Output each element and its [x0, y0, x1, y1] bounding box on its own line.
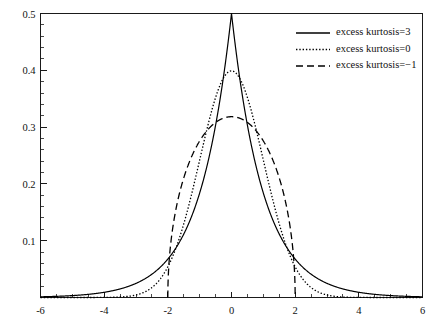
- plot-frame: [41, 14, 423, 298]
- legend-label: excess kurtosis=3: [336, 26, 410, 37]
- legend-label: excess kurtosis=0: [336, 43, 410, 54]
- y-tick-label: 0.1: [22, 236, 35, 247]
- y-axis-minor-ticks: [41, 25, 45, 286]
- x-axis-major-ticks: [41, 292, 423, 298]
- x-tick-label: 2: [293, 305, 298, 316]
- legend-label: excess kurtosis=−1: [336, 59, 416, 70]
- x-tick-label: -2: [163, 305, 172, 316]
- density-curve-1: [41, 14, 423, 297]
- y-tick-label: 0.2: [22, 179, 35, 190]
- kurtosis-density-chart: -6-4-20246 0.10.20.30.40.5 excess kurtos…: [0, 0, 436, 328]
- density-curves: [41, 14, 423, 298]
- x-tick-label: -6: [36, 305, 45, 316]
- y-axis-tick-labels: 0.10.20.30.40.5: [22, 9, 36, 247]
- y-tick-label: 0.5: [22, 9, 35, 20]
- x-tick-label: -4: [100, 305, 109, 316]
- chart-canvas: -6-4-20246 0.10.20.30.40.5 excess kurtos…: [0, 0, 436, 328]
- y-tick-label: 0.3: [22, 122, 35, 133]
- chart-legend: excess kurtosis=3excess kurtosis=0excess…: [296, 26, 416, 70]
- x-axis-tick-labels: -6-4-20246: [36, 305, 425, 316]
- y-tick-label: 0.4: [22, 65, 36, 76]
- x-tick-label: 4: [356, 305, 362, 316]
- x-tick-label: 6: [420, 305, 425, 316]
- x-tick-label: 0: [229, 305, 234, 316]
- density-curve-2: [41, 71, 423, 298]
- density-curve-3: [168, 117, 295, 298]
